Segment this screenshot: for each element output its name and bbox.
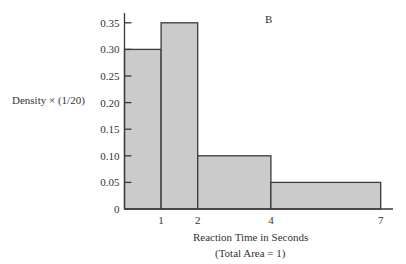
panel-label: B [265,13,272,25]
x-axis-label: Reaction Time in Seconds [193,231,308,243]
histogram-bar [271,182,381,209]
y-tick-label: 0.25 [100,70,120,82]
y-tick-label: 0 [114,203,120,215]
x-axis-note: (Total Area = 1) [215,247,286,259]
histogram-chart: 00.050.100.150.200.250.300.351247 [0,0,406,264]
x-tick-label: 4 [268,214,274,226]
x-tick-label: 2 [195,214,201,226]
y-tick-label: 0.30 [100,43,120,55]
y-tick-label: 0.20 [100,97,120,109]
histogram-bar [161,23,198,209]
histogram-bar [198,156,271,209]
y-tick-label: 0.15 [100,123,120,135]
x-tick-label: 7 [378,214,384,226]
y-axis-label: Density × (1/20) [12,94,85,106]
x-tick-label: 1 [158,214,164,226]
y-tick-label: 0.05 [100,176,120,188]
y-tick-label: 0.10 [100,150,120,162]
y-tick-label: 0.35 [100,17,120,29]
